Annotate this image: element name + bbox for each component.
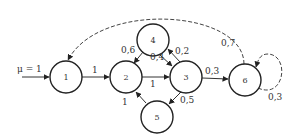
edge-6-1-label: 0,7: [221, 38, 236, 48]
edge-3-6: [202, 78, 228, 79]
edge-3-4-label: 0,2: [175, 46, 189, 56]
node-1-label: 1: [63, 73, 68, 82]
state-diagram: 1 2 3 4 5 6 μ = 1 1 1 0,6 0,4 0,2 0,3 0,…: [0, 0, 297, 136]
edge-4-2-label: 0,6: [121, 45, 136, 55]
edge-5-2-label: 1: [122, 97, 128, 107]
edge-4-2: [134, 52, 143, 63]
edge-6-6-label: 0,3: [268, 92, 283, 102]
edge-5-2: [136, 92, 146, 103]
node-3-label: 3: [183, 73, 188, 82]
input-label: μ = 1: [17, 64, 42, 74]
edge-3-6-label: 0,3: [205, 66, 220, 76]
node-5-label: 5: [154, 113, 159, 122]
edge-4-3-label: 0,4: [150, 52, 165, 62]
edge-3-5-label: 0,5: [180, 95, 195, 105]
node-6-label: 6: [242, 76, 247, 85]
edge-2-3-label: 1: [150, 79, 156, 89]
edge-1-2-label: 1: [92, 65, 98, 75]
node-2-label: 2: [123, 73, 128, 82]
node-4-label: 4: [150, 36, 155, 45]
